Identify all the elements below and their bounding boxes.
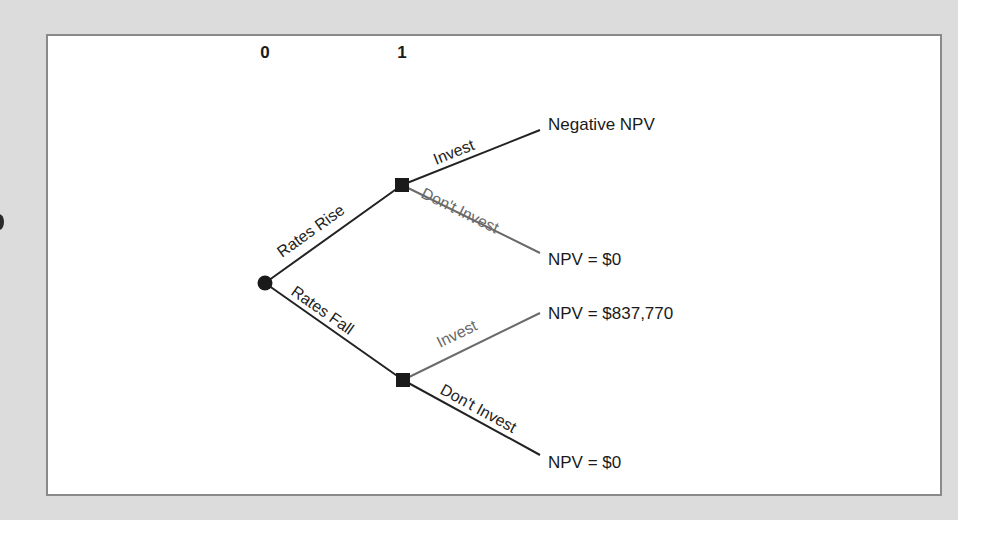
branch-fall-dont-invest — [403, 380, 540, 455]
branch-label-rates-fall: Rates Fall — [288, 283, 357, 338]
branch-label-fall-dont-invest: Don't Invest — [438, 381, 520, 437]
chance-node-circle-icon — [258, 276, 273, 291]
branch-rates-rise — [265, 185, 402, 283]
outcome-npv-837770: NPV = $837,770 — [548, 304, 673, 323]
outcome-npv-zero-top: NPV = $0 — [548, 250, 621, 269]
branch-label-rise-invest: Invest — [431, 136, 477, 168]
outcome-negative-npv: Negative NPV — [548, 115, 655, 134]
period-label-1: 1 — [397, 43, 406, 62]
period-label-0: 0 — [260, 43, 269, 62]
decision-tree: 0 1 Rates Rise Rates Fall Invest Don't I… — [0, 0, 981, 533]
outcome-npv-zero-bottom: NPV = $0 — [548, 453, 621, 472]
branch-label-rise-dont-invest: Don't Invest — [419, 184, 502, 236]
decision-node-square-icon — [395, 178, 409, 192]
branch-rates-fall — [265, 283, 403, 380]
decision-node-square-icon — [396, 373, 410, 387]
